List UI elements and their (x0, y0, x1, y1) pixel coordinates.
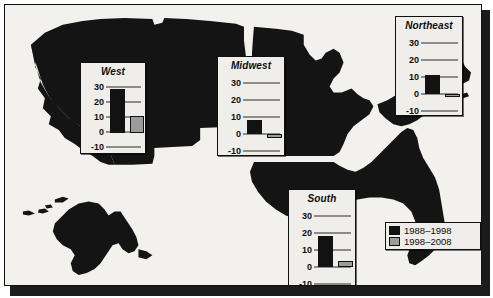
ytick-20: 20 (83, 98, 104, 107)
chart-box-west: West 30 20 10 0 -10 (80, 62, 146, 154)
ytick-10: 10 (83, 113, 104, 122)
bar-midwest-1988-1998 (247, 120, 262, 134)
ytick-20: 20 (220, 96, 241, 105)
legend-item-1988-1998: 1988–1998 (389, 225, 477, 236)
ytick-30: 30 (291, 212, 312, 221)
map-panel: West 30 20 10 0 -10 (4, 4, 482, 286)
ytick-0: 0 (220, 130, 241, 139)
bar-west-1988-1998 (110, 89, 125, 133)
bars-midwest (243, 73, 280, 153)
legend-swatch-icon-light (389, 237, 400, 246)
ytick-30: 30 (220, 79, 241, 88)
chart-title-midwest: Midwest (218, 60, 284, 71)
ytick-neg10: -10 (220, 147, 241, 156)
legend-label-1998-2008: 1998–2008 (404, 237, 452, 247)
ytick-20: 20 (291, 229, 312, 238)
bar-west-1998-2008 (130, 116, 144, 133)
bars-northeast (421, 33, 458, 113)
ytick-10: 10 (291, 246, 312, 255)
region-alaska (53, 202, 153, 275)
chart-title-west: West (81, 66, 145, 77)
bar-northeast-1988-1998 (425, 75, 440, 94)
legend-item-1998-2008: 1998–2008 (389, 236, 477, 247)
chart-box-northeast: Northeast 30 20 10 0 -10 (395, 16, 463, 116)
figure-root: West 30 20 10 0 -10 (0, 0, 493, 298)
plot-area-northeast: 30 20 10 0 -10 (398, 33, 458, 113)
bars-west (106, 79, 141, 151)
chart-box-south: South 30 20 10 0 -10 (288, 189, 356, 286)
ytick-neg10: -10 (398, 107, 419, 116)
bar-south-1998-2008 (338, 261, 353, 267)
ytick-0: 0 (398, 90, 419, 99)
bar-northeast-1998-2008 (445, 94, 460, 97)
bars-south (314, 206, 351, 286)
ytick-20: 20 (398, 56, 419, 65)
ytick-neg10: -10 (291, 280, 312, 287)
plot-area-midwest: 30 20 10 0 -10 (220, 73, 280, 153)
plot-area-west: 30 20 10 0 -10 (83, 79, 141, 151)
ytick-30: 30 (83, 83, 104, 92)
ytick-10: 10 (398, 73, 419, 82)
chart-title-south: South (289, 193, 355, 204)
ytick-0: 0 (83, 128, 104, 137)
region-hawaii (45, 197, 69, 209)
ytick-neg10: -10 (83, 143, 104, 152)
legend-label-1988-1998: 1988–1998 (404, 226, 452, 236)
plot-area-south: 30 20 10 0 -10 (291, 206, 351, 286)
chart-title-northeast: Northeast (396, 20, 462, 31)
ytick-30: 30 (398, 39, 419, 48)
bar-south-1988-1998 (318, 236, 333, 267)
bar-midwest-1998-2008 (267, 134, 282, 138)
legend: 1988–1998 1998–2008 (385, 222, 481, 250)
legend-swatch-icon-dark (389, 226, 400, 235)
region-aleutians (23, 209, 49, 216)
ytick-10: 10 (220, 113, 241, 122)
ytick-0: 0 (291, 263, 312, 272)
chart-box-midwest: Midwest 30 20 10 0 -10 (217, 56, 285, 156)
